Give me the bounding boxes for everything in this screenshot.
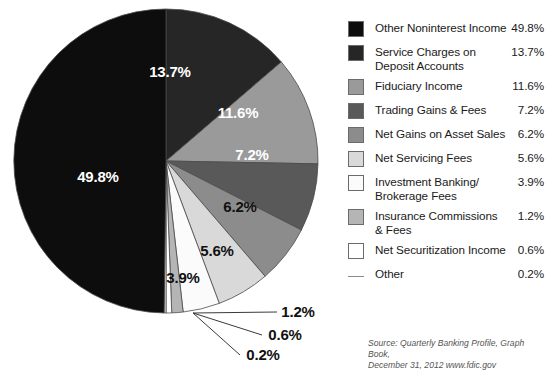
legend-label: Net Servicing Fees <box>375 150 510 165</box>
legend-label: Service Charges onDeposit Accounts <box>375 44 510 73</box>
legend-label-line-1: Service Charges on <box>375 45 510 59</box>
legend-label-line-1: Fiduciary Income <box>375 79 510 93</box>
legend-box-marker-icon <box>348 209 364 225</box>
legend-value: 0.2% <box>510 266 544 281</box>
legend-label: Other Noninterest Income <box>375 20 510 35</box>
legend-swatch-net-securitization-income <box>348 243 366 261</box>
legend-label-line-1: Net Gains on Asset Sales <box>375 127 510 141</box>
legend-label-line-1: Other <box>375 267 510 281</box>
callout-leader-line <box>193 312 277 313</box>
legend-item-insurance-commissions-and-fees[interactable]: Insurance Commissions& Fees1.2% <box>348 208 544 237</box>
legend-label-line-1: Net Securitization Income <box>375 243 510 257</box>
legend-value: 5.6% <box>510 150 544 165</box>
legend-label: Investment Banking/Brokerage Fees <box>375 174 510 203</box>
legend-label: Net Securitization Income <box>375 242 510 257</box>
legend-label-line-2: & Fees <box>375 223 510 237</box>
pie-slice-value-label: 3.9% <box>166 269 199 286</box>
legend-label: Fiduciary Income <box>375 78 510 93</box>
legend-swatch-fiduciary-income <box>348 79 366 97</box>
pie-callout-value-label: 0.6% <box>268 326 301 343</box>
legend-swatch-net-gains-on-asset-sales <box>348 127 366 145</box>
chart-legend: Other Noninterest Income49.8%Service Cha… <box>348 20 544 290</box>
legend-item-other[interactable]: Other0.2% <box>348 266 544 285</box>
legend-label-line-2: Deposit Accounts <box>375 59 510 73</box>
pie-slice-value-label: 5.6% <box>200 242 233 259</box>
legend-label-line-1: Other Noninterest Income <box>375 21 510 35</box>
pie-callout-value-label: 0.2% <box>246 346 279 363</box>
legend-box-marker-icon <box>348 103 364 119</box>
source-line-2: December 31, 2012 www.fdic.gov <box>368 360 548 371</box>
legend-label-line-1: Net Servicing Fees <box>375 151 510 165</box>
legend-swatch-trading-gains-and-fees <box>348 103 366 121</box>
pie-slice-value-label: 11.6% <box>218 104 259 121</box>
source-citation: Source: Quarterly Banking Profile, Graph… <box>368 338 548 371</box>
legend-swatch-other-noninterest-income <box>348 21 366 39</box>
callout-leader-line <box>193 313 262 335</box>
legend-box-marker-icon <box>348 243 364 259</box>
legend-item-investment-banking-brokerage-fees[interactable]: Investment Banking/Brokerage Fees3.9% <box>348 174 544 203</box>
pie-slice-value-label: 7.2% <box>235 146 268 163</box>
legend-swatch-net-servicing-fees <box>348 151 366 169</box>
legend-label-line-1: Insurance Commissions <box>375 209 510 223</box>
legend-label: Trading Gains & Fees <box>375 102 510 117</box>
legend-swatch-investment-banking-brokerage-fees <box>348 175 366 193</box>
source-line-1: Source: Quarterly Banking Profile, Graph… <box>368 338 548 360</box>
legend-box-marker-icon <box>348 45 364 61</box>
legend-box-marker-icon <box>348 127 364 143</box>
legend-label-line-1: Investment Banking/ <box>375 175 510 189</box>
legend-box-marker-icon <box>348 79 364 95</box>
legend-item-other-noninterest-income[interactable]: Other Noninterest Income49.8% <box>348 20 544 39</box>
legend-item-net-gains-on-asset-sales[interactable]: Net Gains on Asset Sales6.2% <box>348 126 544 145</box>
pie-chart-svg: 49.8%13.7%11.6%7.2%6.2%5.6%3.9% 1.2%0.6%… <box>0 0 340 377</box>
pie-slices <box>14 9 318 313</box>
legend-value: 3.9% <box>510 174 544 189</box>
legend-item-service-charges-on-deposit-accounts[interactable]: Service Charges onDeposit Accounts13.7% <box>348 44 544 73</box>
pie-slice-value-label: 6.2% <box>223 198 256 215</box>
legend-box-marker-icon <box>348 151 364 167</box>
callout-leader-line <box>193 313 240 355</box>
legend-swatch-service-charges-on-deposit-accounts <box>348 45 366 63</box>
legend-value: 7.2% <box>510 102 544 117</box>
legend-label: Net Gains on Asset Sales <box>375 126 510 141</box>
legend-box-marker-icon <box>348 175 364 191</box>
legend-swatch-insurance-commissions-and-fees <box>348 209 366 227</box>
legend-item-net-securitization-income[interactable]: Net Securitization Income0.6% <box>348 242 544 261</box>
legend-value: 1.2% <box>510 208 544 223</box>
legend-value: 11.6% <box>510 78 544 93</box>
legend-value: 49.8% <box>510 20 544 35</box>
legend-value: 0.6% <box>510 242 544 257</box>
pie-chart-figure: 49.8%13.7%11.6%7.2%6.2%5.6%3.9% 1.2%0.6%… <box>0 0 549 377</box>
legend-line-marker-icon <box>348 276 364 277</box>
pie-slice-other-noninterest-income[interactable] <box>14 9 166 313</box>
legend-item-fiduciary-income[interactable]: Fiduciary Income11.6% <box>348 78 544 97</box>
legend-box-marker-icon <box>348 21 364 37</box>
legend-label: Insurance Commissions& Fees <box>375 208 510 237</box>
legend-label-line-2: Brokerage Fees <box>375 189 510 203</box>
legend-swatch-other <box>348 267 366 285</box>
legend-label-line-1: Trading Gains & Fees <box>375 103 510 117</box>
legend-value: 13.7% <box>510 44 544 59</box>
pie-callout-value-label: 1.2% <box>281 303 314 320</box>
pie-slice-value-label: 13.7% <box>149 63 191 80</box>
pie-slice-value-label: 49.8% <box>77 168 119 185</box>
pie-chart-area: 49.8%13.7%11.6%7.2%6.2%5.6%3.9% 1.2%0.6%… <box>0 0 340 377</box>
legend-item-net-servicing-fees[interactable]: Net Servicing Fees5.6% <box>348 150 544 169</box>
legend-value: 6.2% <box>510 126 544 141</box>
legend-item-trading-gains-and-fees[interactable]: Trading Gains & Fees7.2% <box>348 102 544 121</box>
legend-label: Other <box>375 266 510 281</box>
